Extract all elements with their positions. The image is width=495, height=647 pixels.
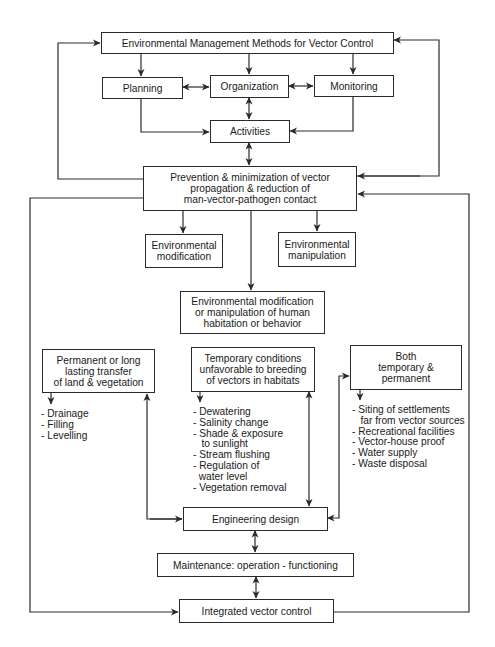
box-label: Organization (221, 81, 279, 92)
list-item: water level (193, 472, 286, 483)
box-label: Prevention & minimization of vector prop… (170, 172, 330, 205)
both-list: - Siting of settlements far from vector … (352, 405, 465, 470)
box-label: Permanent or long lasting transfer of la… (53, 355, 143, 388)
box-label: Integrated vector control (202, 606, 312, 617)
box-label: Environmental modification (151, 240, 216, 262)
organization-box: Organization (210, 75, 289, 98)
list-item: - Levelling (41, 431, 89, 442)
both-box: Both temporary & permanent (350, 345, 462, 390)
box-label: Activities (230, 126, 270, 137)
permanent-box: Permanent or long lasting transfer of la… (42, 349, 155, 393)
integrated-vector-control-box: Integrated vector control (179, 599, 334, 623)
temporary-box: Temporary conditions unfavorable to bree… (191, 347, 315, 392)
box-label: Environmental modification or manipulati… (191, 296, 313, 329)
list-item: - Waste disposal (352, 459, 465, 470)
human-habitation-box: Environmental modification or manipulati… (180, 291, 325, 334)
maintenance-box: Maintenance: operation - functioning (157, 553, 354, 577)
temporary-list: - Dewatering - Salinity change - Shade &… (193, 407, 286, 493)
box-label: Monitoring (330, 81, 378, 92)
env-modification-box: Environmental modification (145, 234, 223, 268)
box-label: Planning (123, 83, 163, 94)
activities-box: Activities (210, 120, 290, 143)
engineering-design-box: Engineering design (183, 507, 328, 531)
list-item: - Salinity change (193, 418, 286, 429)
box-label: Engineering design (212, 514, 299, 525)
env-management-methods-box: Environmental Management Methods for Vec… (101, 32, 394, 54)
prevention-box: Prevention & minimization of vector prop… (143, 166, 357, 211)
box-label: Temporary conditions unfavorable to bree… (199, 353, 306, 386)
box-label: Environmental Management Methods for Vec… (122, 38, 373, 49)
planning-box: Planning (102, 77, 183, 99)
box-label: Environmental manipulation (284, 239, 349, 261)
env-manipulation-box: Environmental manipulation (278, 232, 356, 267)
permanent-list: - Drainage - Filling - Levelling (41, 409, 89, 441)
box-label: Both temporary & permanent (378, 351, 433, 384)
list-item: - Filling (41, 420, 89, 431)
list-item: far from vector sources (352, 416, 465, 427)
monitoring-box: Monitoring (314, 75, 394, 97)
box-label: Maintenance: operation - functioning (173, 560, 338, 571)
caption-clipped (150, 641, 430, 647)
list-item: - Vegetation removal (193, 483, 286, 494)
